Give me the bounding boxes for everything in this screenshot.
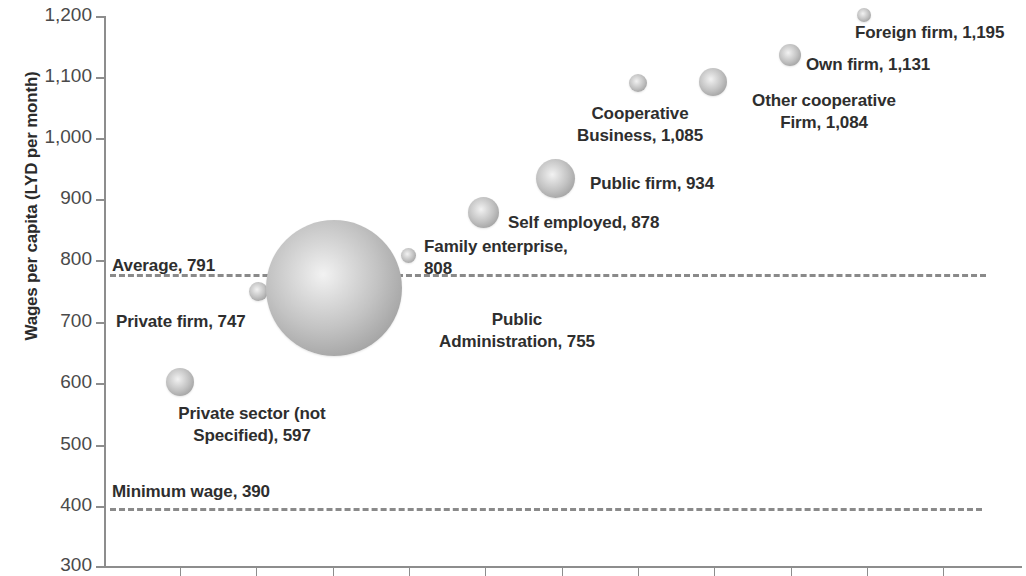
label-average: Average, 791 xyxy=(112,255,215,277)
y-tick-label-500: 500 xyxy=(4,433,92,455)
bubble-cooperative-business[interactable] xyxy=(629,74,647,92)
y-tick-500 xyxy=(96,445,105,447)
y-tick-400 xyxy=(96,506,105,508)
y-tick-300 xyxy=(96,566,105,568)
x-tick-6 xyxy=(562,567,563,576)
y-tick-label-1200: 1,200 xyxy=(4,4,92,26)
label-public-administration: Public Administration, 755 xyxy=(404,309,630,353)
y-tick-1100 xyxy=(96,77,105,79)
label-self-employed: Self employed, 878 xyxy=(508,212,659,234)
x-tick-3 xyxy=(333,567,334,576)
y-tick-1000 xyxy=(96,138,105,140)
y-tick-label-400: 400 xyxy=(4,494,92,516)
x-tick-10 xyxy=(867,567,868,576)
bubble-other-cooperative-firm[interactable] xyxy=(699,68,727,96)
y-axis-line xyxy=(104,16,106,568)
y-tick-label-300: 300 xyxy=(4,554,92,576)
label-other-cooperative-firm: Other cooperative Firm, 1,084 xyxy=(730,90,918,134)
x-tick-1 xyxy=(180,567,181,576)
y-tick-800 xyxy=(96,260,105,262)
label-cooperative-business: Cooperative Business, 1,085 xyxy=(550,103,730,147)
x-axis-line xyxy=(104,566,1022,568)
x-tick-5 xyxy=(485,567,486,576)
y-tick-label-600: 600 xyxy=(4,371,92,393)
y-tick-label-800: 800 xyxy=(4,248,92,270)
bubble-private-sector[interactable] xyxy=(166,368,194,396)
x-tick-7 xyxy=(638,567,639,576)
label-public-firm: Public firm, 934 xyxy=(590,173,714,195)
bubble-family-enterprise[interactable] xyxy=(401,248,416,263)
bubble-chart: Wages per capita (LYD per month) 1,200 1… xyxy=(0,0,1026,576)
y-tick-label-900: 900 xyxy=(4,187,92,209)
minimum-wage-reference-line xyxy=(110,508,982,511)
y-tick-label-1100: 1,100 xyxy=(4,65,92,87)
label-family-enterprise: Family enterprise, 808 xyxy=(424,236,568,280)
y-tick-900 xyxy=(96,199,105,201)
y-tick-label-1000: 1,000 xyxy=(4,126,92,148)
x-tick-4 xyxy=(409,567,410,576)
label-foreign-firm: Foreign firm, 1,195 xyxy=(855,22,1004,44)
x-tick-9 xyxy=(791,567,792,576)
x-tick-8 xyxy=(714,567,715,576)
y-tick-600 xyxy=(96,383,105,385)
label-own-firm: Own firm, 1,131 xyxy=(806,54,930,76)
y-tick-1200 xyxy=(96,16,105,18)
x-tick-2 xyxy=(256,567,257,576)
label-private-sector: Private sector (not Specified), 597 xyxy=(140,403,364,447)
x-tick-11 xyxy=(943,567,944,576)
label-private-firm: Private firm, 747 xyxy=(116,311,246,333)
bubble-own-firm[interactable] xyxy=(779,44,801,66)
y-tick-label-700: 700 xyxy=(4,310,92,332)
bubble-public-firm[interactable] xyxy=(536,159,575,198)
bubble-foreign-firm[interactable] xyxy=(857,8,871,22)
y-tick-700 xyxy=(96,322,105,324)
bubble-public-administration[interactable] xyxy=(266,220,402,356)
label-minimum-wage: Minimum wage, 390 xyxy=(112,481,270,503)
bubble-self-employed[interactable] xyxy=(468,197,499,228)
